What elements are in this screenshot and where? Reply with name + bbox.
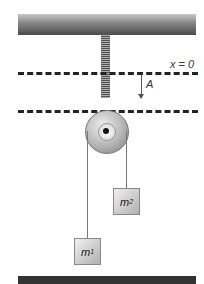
rope-m1: [87, 131, 88, 238]
mass-m1-subscript: 1: [90, 248, 94, 255]
pulley-axle: [103, 128, 109, 134]
rope-m2: [126, 131, 127, 188]
mass-m2-subscript: 2: [129, 198, 133, 205]
floor: [18, 276, 196, 284]
amplitude-arrowhead-icon: [138, 94, 144, 99]
mass-m1-symbol: m: [81, 246, 90, 258]
ceiling: [18, 14, 196, 35]
mass-m2: m2: [113, 188, 140, 215]
mass-m1: m1: [74, 238, 101, 265]
amplitude-label: A: [146, 78, 153, 90]
spring: [101, 34, 110, 98]
equilibrium-label: x = 0: [170, 58, 194, 70]
equilibrium-line: [18, 72, 198, 75]
mass-m2-symbol: m: [120, 196, 129, 208]
